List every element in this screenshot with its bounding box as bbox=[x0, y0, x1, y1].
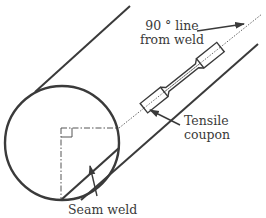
label-90-degree-line: 90 ° line from weld bbox=[140, 19, 204, 47]
pipe-upper-edge bbox=[35, 6, 130, 92]
label-seam-text: Seam weld bbox=[68, 202, 137, 217]
pipe-lower-edge bbox=[81, 44, 258, 200]
arrow-90-line bbox=[197, 24, 244, 31]
label-90-line-2: from weld bbox=[140, 33, 204, 47]
label-coupon-line-2: coupon bbox=[184, 128, 230, 142]
pipe-diagram bbox=[0, 0, 266, 218]
label-tensile-coupon: Tensile coupon bbox=[184, 114, 230, 142]
right-angle-marker bbox=[61, 128, 72, 137]
label-90-line-1: 90 ° line bbox=[140, 19, 204, 33]
diagram-canvas: 90 ° line from weld Tensile coupon Seam … bbox=[0, 0, 266, 218]
tensile-coupon bbox=[140, 42, 224, 113]
label-seam-weld: Seam weld bbox=[68, 203, 137, 217]
label-coupon-line-1: Tensile bbox=[184, 114, 230, 128]
